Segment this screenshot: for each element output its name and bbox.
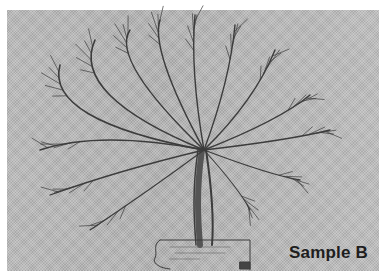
branch-line	[114, 36, 127, 48]
branch-line	[123, 25, 127, 38]
branch-line	[76, 58, 92, 67]
tree-branches	[32, 6, 342, 230]
tree-trunk	[194, 150, 213, 245]
branch-line	[325, 131, 342, 138]
branch-line	[41, 187, 58, 192]
branch-line	[41, 73, 60, 84]
branch-line	[81, 70, 95, 73]
branch-line	[244, 199, 259, 210]
branch-line	[204, 150, 300, 180]
branch-line	[158, 20, 204, 150]
branch-line	[90, 150, 204, 230]
branch-line	[76, 44, 92, 60]
branch-line	[79, 225, 97, 226]
branch-line	[188, 26, 194, 43]
branch-line	[231, 34, 232, 52]
tree-diagram	[0, 0, 385, 280]
branch-line	[51, 56, 59, 72]
branch-line	[159, 6, 163, 24]
branch-line	[115, 24, 127, 43]
branch-line	[204, 25, 235, 150]
branch-line	[288, 178, 309, 185]
branch-line	[234, 19, 247, 32]
branch-line	[85, 41, 92, 53]
branch-line	[151, 12, 158, 33]
branch-line	[195, 6, 204, 22]
branch-line	[284, 176, 302, 177]
branch-line	[298, 94, 318, 104]
sample-caption: Sample B	[289, 243, 368, 263]
branch-line	[186, 39, 194, 50]
branch-line	[226, 46, 230, 59]
branch-line	[93, 216, 111, 229]
branch-line	[296, 179, 308, 193]
branch-line	[279, 172, 293, 176]
branch-line	[50, 150, 204, 195]
branch-line	[194, 15, 204, 150]
branch-line	[204, 130, 330, 150]
branch-line	[89, 29, 93, 47]
